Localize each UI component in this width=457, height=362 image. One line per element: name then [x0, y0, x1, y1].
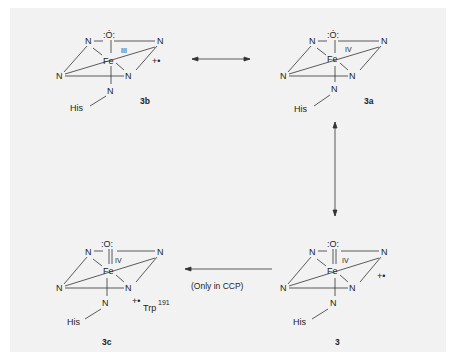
n-atom: N	[157, 36, 164, 46]
histidine-label: His	[294, 104, 307, 114]
n-atom: N	[381, 247, 388, 257]
n-atom: N	[349, 283, 356, 293]
resonance-arrow-vertical	[333, 122, 337, 216]
n-atom: N	[280, 283, 287, 293]
n-atom: N	[331, 84, 338, 94]
tryptophan-residue: Trp	[143, 303, 156, 313]
structure-3a: :Ȯ: N N N N Fe IV N His 3a	[280, 30, 388, 114]
residue-number: 191	[158, 299, 170, 306]
structure-label: 3	[335, 337, 340, 347]
n-atom: N	[309, 36, 316, 46]
n-atom: N	[56, 71, 63, 81]
n-atom: N	[309, 247, 316, 257]
oxidation-state: IV	[345, 46, 352, 53]
n-atom: N	[381, 36, 388, 46]
n-atom: N	[349, 71, 356, 81]
histidine-label: His	[67, 317, 80, 327]
radical-cation: +•	[132, 296, 140, 306]
iron-atom: Fe	[103, 266, 114, 276]
structure-label: 3a	[364, 96, 374, 106]
histidine-label: His	[70, 103, 83, 113]
oxygen-atom: :Ȯ:	[103, 30, 115, 40]
oxygen-atom: :O:	[327, 239, 339, 249]
n-atom: N	[125, 71, 132, 81]
oxygen-atom: :O:	[101, 239, 113, 249]
n-atom: N	[330, 298, 337, 308]
structure-label: 3b	[140, 96, 150, 106]
n-atom: N	[157, 247, 164, 257]
n-atom: N	[56, 283, 63, 293]
oxygen-atom: :Ȯ:	[327, 30, 339, 40]
n-atom: N	[102, 298, 109, 308]
reaction-arrow	[185, 267, 272, 271]
radical-cation: +•	[152, 56, 160, 66]
n-atom: N	[280, 71, 287, 81]
structure-label: 3c	[102, 337, 112, 347]
oxidation-state: IV	[115, 257, 122, 264]
oxidation-state: IV	[342, 257, 349, 264]
arrow-condition-label: (Only in CCP)	[191, 281, 244, 291]
histidine-label: His	[293, 317, 306, 327]
reaction-diagram: :Ȯ: N N N N Fe III +• N His 3b :Ȯ: N N N…	[0, 0, 457, 362]
iron-atom: Fe	[327, 266, 338, 276]
n-atom: N	[125, 283, 132, 293]
iron-atom: Fe	[103, 56, 114, 66]
n-atom: N	[85, 36, 92, 46]
structure-3c: :O: N N N N Fe IV N His +• Trp 191 3c	[56, 239, 170, 347]
n-atom: N	[107, 86, 114, 96]
n-atom: N	[85, 247, 92, 257]
resonance-arrow-horizontal	[192, 57, 250, 61]
radical-cation: +•	[377, 271, 385, 281]
iron-atom: Fe	[327, 54, 338, 64]
oxidation-state: III	[121, 47, 127, 54]
structure-3: :O: N N N N Fe IV +• N His 3	[280, 239, 388, 347]
structure-3b: :Ȯ: N N N N Fe III +• N His 3b	[56, 30, 164, 113]
